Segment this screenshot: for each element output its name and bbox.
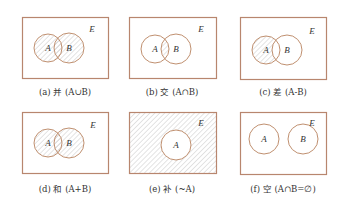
venn-figure: ABEABEABEABEAEABE (a) 并 (A∪B)(b) 交 (A∩B)… [0,0,347,207]
set-label-a: A [151,44,158,54]
venn-panel-a: ABE [23,18,109,79]
caption-e: (e) 补 (~A) [149,182,195,194]
set-label-a: A [44,138,51,148]
set-label-b: B [173,44,179,54]
set-label-b: B [66,138,72,148]
set-label-a: A [172,140,179,150]
set-label-a: A [260,134,267,144]
set-label-b: B [300,134,306,144]
venn-panel-f: ABE [241,113,327,175]
universe-label: E [89,120,96,130]
caption-b: (b) 交 (A∩B) [146,85,199,97]
set-label-b: B [284,45,290,55]
caption-d: (d) 和 (A+B) [39,182,92,194]
set-label-a: A [262,45,269,55]
universe-label: E [197,24,204,34]
universe-label: E [88,24,95,34]
universe-label: E [308,118,315,128]
universe-label: E [308,26,315,36]
venn-panel-e: AE [129,112,217,174]
set-label-b: B [66,43,72,53]
venn-panel-d: ABE [23,113,109,174]
caption-a: (a) 并 (A∪B) [39,85,91,97]
caption-f: (f) 空 (A∩B=∅) [250,182,315,194]
venn-panel-c: ABE [241,18,327,80]
universe-label: E [197,118,204,128]
caption-c: (c) 差 (A-B) [259,85,307,97]
venn-panel-b: ABE [130,18,217,79]
set-label-a: A [44,43,51,53]
venn-diagrams-svg: ABEABEABEABEAEABE [0,0,347,207]
